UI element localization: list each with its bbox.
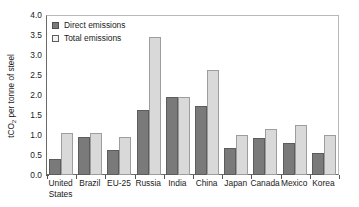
bar-total-emissions[interactable] [295, 125, 307, 175]
x-axis-tick-mark [164, 175, 165, 179]
x-axis-tick-mark [310, 175, 311, 179]
bar-direct-emissions[interactable] [283, 143, 295, 175]
bar-group [193, 15, 222, 175]
legend-swatch-total [52, 35, 59, 42]
bar-total-emissions[interactable] [149, 37, 161, 175]
bar-total-emissions[interactable] [207, 70, 219, 175]
bar-direct-emissions[interactable] [49, 159, 61, 175]
y-axis-tick-label: 2.0 [18, 91, 42, 99]
x-axis-tick-label-line1: Russia [135, 178, 161, 188]
x-axis-tick-label-line1: Japan [224, 178, 247, 188]
bar-direct-emissions[interactable] [107, 150, 119, 175]
x-axis-tick-label-line1: India [168, 178, 186, 188]
x-axis-tick-label: Russia [134, 178, 163, 189]
x-axis-tick-mark [251, 175, 252, 179]
y-axis-tick-label: 2.5 [18, 71, 42, 79]
bar-direct-emissions[interactable] [137, 110, 149, 175]
bar-total-emissions[interactable] [90, 133, 102, 175]
x-axis-tick-mark [135, 175, 136, 179]
y-axis-tick-label: 4.0 [18, 11, 42, 19]
y-axis-tick-label: 3.5 [18, 31, 42, 39]
bar-group [281, 15, 310, 175]
y-axis-tick-labels: 0.00.51.01.52.02.53.03.54.0 [18, 15, 42, 175]
x-axis-tick-mark [222, 175, 223, 179]
bar-total-emissions[interactable] [61, 133, 73, 175]
bar-direct-emissions[interactable] [224, 148, 236, 175]
x-axis-tick-label: Brazil [75, 178, 104, 189]
bar-direct-emissions[interactable] [166, 97, 178, 175]
bar-direct-emissions[interactable] [253, 138, 265, 175]
x-axis-tick-label: Japan [221, 178, 250, 189]
x-axis-tick-label: UnitedStates [46, 178, 75, 199]
bar-total-emissions[interactable] [236, 135, 248, 175]
bar-group [310, 15, 339, 175]
x-axis-tick-label: Canada [250, 178, 279, 189]
bar-direct-emissions[interactable] [195, 106, 207, 175]
x-axis-tick-labels: UnitedStatesBrazilEU-25RussiaIndiaChinaJ… [46, 178, 339, 206]
y-axis-tick-label: 1.0 [18, 131, 42, 139]
x-axis-tick-label-line1: China [196, 178, 218, 188]
x-axis-tick-label-line2: States [46, 189, 75, 200]
x-axis-tick-label-line1: EU-25 [107, 178, 131, 188]
x-axis-tick-mark [47, 175, 48, 179]
y-axis-tick-label: 1.5 [18, 111, 42, 119]
bar-group [251, 15, 280, 175]
x-axis-tick-mark [105, 175, 106, 179]
y-axis-title-suffix: per tonne of steel [7, 54, 16, 120]
x-axis-tick-mark [193, 175, 194, 179]
bar-total-emissions[interactable] [119, 137, 131, 175]
y-axis-tick-label: 3.0 [18, 51, 42, 59]
y-axis-tick-label: 0.0 [18, 171, 42, 179]
bar-total-emissions[interactable] [178, 97, 190, 175]
bar-total-emissions[interactable] [324, 135, 336, 175]
bar-group [164, 15, 193, 175]
x-axis-tick-label-line1: Brazil [79, 178, 100, 188]
x-axis-tick-label-line1: Korea [312, 178, 334, 188]
bar-group [222, 15, 251, 175]
y-axis-title-prefix: tCO [7, 123, 16, 138]
chart-container: tCO2 per tonne of steel 0.00.51.01.52.02… [0, 0, 359, 207]
legend-entry[interactable]: Direct emissions [52, 20, 162, 31]
legend-swatch-direct [52, 22, 59, 29]
legend-entry[interactable]: Total emissions [52, 33, 162, 44]
x-axis-tick-label: China [192, 178, 221, 189]
bar-direct-emissions[interactable] [312, 153, 324, 175]
x-axis-tick-mark [339, 175, 340, 179]
x-axis-tick-label-line1: Mexico [281, 178, 308, 188]
legend-label: Total emissions [64, 34, 121, 43]
y-axis-title: tCO2 per tonne of steel [5, 16, 19, 176]
x-axis-tick-mark [281, 175, 282, 179]
y-axis-tick-label: 0.5 [18, 151, 42, 159]
x-axis-tick-label: India [163, 178, 192, 189]
legend-label: Direct emissions [64, 21, 125, 30]
y-axis-title-subscript: 2 [10, 120, 17, 123]
bar-direct-emissions[interactable] [78, 137, 90, 175]
x-axis-tick-label: Mexico [280, 178, 309, 189]
x-axis-tick-label: EU-25 [104, 178, 133, 189]
x-axis-tick-label-line1: United [48, 178, 72, 188]
x-axis-tick-label: Korea [309, 178, 338, 189]
chart-legend: Direct emissionsTotal emissions [52, 20, 162, 46]
bar-total-emissions[interactable] [265, 129, 277, 175]
x-axis-tick-label-line1: Canada [250, 178, 279, 188]
x-axis-tick-mark [76, 175, 77, 179]
